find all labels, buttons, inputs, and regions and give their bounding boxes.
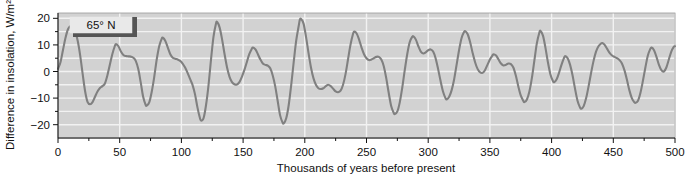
- x-tick-label: 500: [665, 146, 684, 158]
- x-tick-label: 100: [172, 146, 191, 158]
- x-tick-label: 400: [542, 146, 561, 158]
- x-tick-label: 450: [604, 146, 623, 158]
- legend-label-65n: 65° N: [87, 19, 116, 31]
- legend-box: 65° N: [70, 17, 137, 37]
- y-tick-label: 0: [44, 66, 50, 78]
- y-tick-label: 20: [37, 12, 50, 24]
- insolation-chart-figure: 050100150200250300350400450500 −20−10010…: [0, 0, 685, 180]
- legend-box-shadow: [73, 33, 132, 37]
- x-axis-ticks: 050100150200250300350400450500: [55, 138, 685, 158]
- x-axis-title: Thousands of years before present: [277, 162, 456, 174]
- x-tick-label: 250: [357, 146, 376, 158]
- legend-box-shadow-right: [132, 17, 137, 37]
- x-tick-label: 0: [55, 146, 61, 158]
- x-tick-label: 300: [419, 146, 438, 158]
- y-tick-label: −20: [30, 119, 50, 131]
- y-tick-label: −10: [30, 92, 50, 104]
- x-tick-label: 350: [480, 146, 499, 158]
- y-axis-ticks: −20−1001020: [30, 12, 58, 130]
- x-tick-label: 150: [234, 146, 253, 158]
- y-axis-title: Difference in insolation, W/m²: [4, 0, 16, 150]
- chart-canvas: 050100150200250300350400450500 −20−10010…: [0, 0, 685, 180]
- x-tick-label: 200: [295, 146, 314, 158]
- y-tick-label: 10: [37, 39, 50, 51]
- x-tick-label: 50: [113, 146, 126, 158]
